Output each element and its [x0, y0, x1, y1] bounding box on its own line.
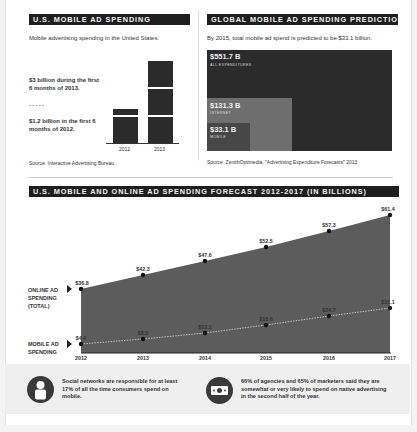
online-value-2014: $47.6 — [198, 252, 211, 258]
person-icon — [27, 376, 54, 403]
x-2015: 2015 — [260, 355, 272, 361]
mobile-value-2017: $31.1 — [381, 299, 394, 305]
online-label: ONLINE AD SPENDING (TOTAL) — [28, 286, 58, 310]
x-2017: 2017 — [384, 355, 396, 361]
money-icon — [206, 377, 233, 404]
mobile-value-2014: $13.1 — [198, 324, 211, 330]
mobile-value-2012: $4.4 — [76, 335, 86, 341]
x-2016: 2016 — [323, 355, 335, 361]
online-value-2016: $57.3 — [322, 222, 335, 228]
online-value-2012: $36.8 — [75, 280, 88, 286]
online-value-2017: $61.4 — [381, 206, 394, 212]
online-value-2015: $52.5 — [259, 238, 272, 244]
fact-social: Social networks are responsible for at l… — [62, 378, 182, 401]
fact-native: 66% of agencies and 65% of marketers sai… — [241, 378, 391, 401]
mobile-value-2016: $24.7 — [322, 307, 335, 313]
online-value-2013: $42.3 — [136, 266, 149, 272]
x-2012: 2012 — [75, 355, 87, 361]
mobile-label: MOBILE AD SPENDING — [28, 340, 59, 356]
mobile-value-2013: $8.5 — [138, 330, 148, 336]
mobile-value-2015: $18.6 — [259, 316, 272, 322]
x-2013: 2013 — [137, 355, 149, 361]
x-2014: 2014 — [199, 355, 211, 361]
